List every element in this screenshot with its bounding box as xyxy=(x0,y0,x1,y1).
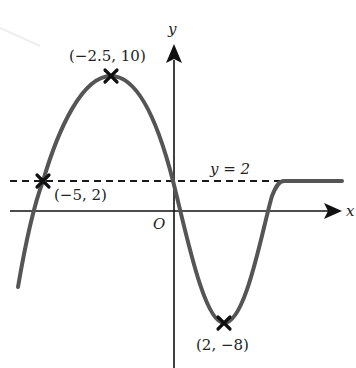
origin-label: O xyxy=(153,217,165,232)
function-graph: y x O y = 2 (−2.5, 10) (−5, 2) (2, −8) xyxy=(0,0,356,368)
background-smudge xyxy=(0,28,40,46)
asymptote-label: y = 2 xyxy=(210,162,250,177)
max-point-label: (−2.5, 10) xyxy=(69,49,146,64)
graph-canvas xyxy=(0,0,356,368)
y-axis-label: y xyxy=(168,22,176,37)
min-point-label: (2, −8) xyxy=(196,338,249,353)
x-axis-label: x xyxy=(346,204,354,219)
left-point-label: (−5, 2) xyxy=(54,188,107,203)
